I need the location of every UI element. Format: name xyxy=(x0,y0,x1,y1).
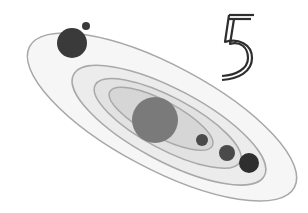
orbit-diagram xyxy=(0,0,308,213)
moon-small-icon xyxy=(82,22,90,30)
planet-medium-icon xyxy=(219,145,235,161)
planet-large-icon xyxy=(239,153,259,173)
solar-system-illustration xyxy=(0,0,308,213)
planet-top-large-icon xyxy=(57,28,87,58)
sun-icon xyxy=(132,97,178,143)
planet-small-icon xyxy=(196,134,208,146)
number-five-icon xyxy=(222,15,254,80)
